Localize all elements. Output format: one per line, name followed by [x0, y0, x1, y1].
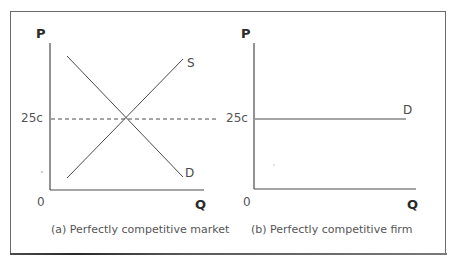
panel-a-caption: (a) Perfectly competitive market	[51, 224, 229, 235]
panel-b-price-tick: 25c	[226, 112, 248, 124]
panel-b-origin-label: 0	[243, 196, 251, 208]
panel-a-price-tick: 25c	[21, 112, 43, 124]
panel-b-x-axis-label: Q	[407, 198, 418, 211]
panel-a-demand-curve	[67, 56, 183, 177]
panel-a-x-axis-label: Q	[195, 198, 206, 211]
panel-b-y-axis-label: P	[241, 27, 251, 40]
panel-a-y-axis-label: P	[36, 27, 46, 40]
panel-a-supply-label: S	[187, 57, 195, 69]
stray-dot	[41, 171, 43, 173]
panel-b-graph	[254, 43, 416, 189]
stray-dot	[273, 164, 275, 166]
panel-b-caption: (b) Perfectly competitive firm	[251, 224, 412, 235]
panel-a-demand-label: D	[185, 167, 194, 179]
panel-b-demand-label: D	[403, 104, 412, 116]
panel-a-origin-label: 0	[37, 196, 45, 208]
